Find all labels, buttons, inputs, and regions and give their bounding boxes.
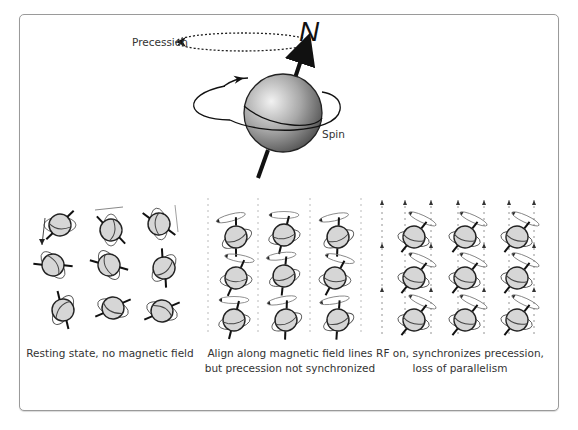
caption-rf-on: RF on, synchronizes precession, loss of … [370,346,550,376]
caption-line: but precession not synchronized [200,361,380,376]
south-axis [258,150,268,178]
proton-sphere [244,74,322,152]
panel-resting [30,202,188,336]
caption-line: loss of parallelism [370,361,550,376]
precession-orbit [176,33,310,51]
caption-resting: Resting state, no magnetic field [20,346,200,361]
precession-label: Precession [132,36,188,48]
north-arrow-icon [295,48,305,78]
spin-label: Spin [322,128,345,140]
caption-line: Align along magnetic field lines [200,346,380,361]
caption-aligned: Align along magnetic field lines but pre… [200,346,380,376]
caption-line: RF on, synchronizes precession, [370,346,550,361]
caption-line: Resting state, no magnetic field [20,346,200,361]
panel-rf-on [380,200,543,345]
large-proton-illustration [176,33,340,178]
panel-aligned [208,198,361,342]
north-pole-label: N [299,16,319,48]
